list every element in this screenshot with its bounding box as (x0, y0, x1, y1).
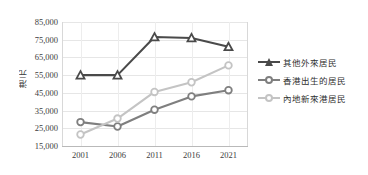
y-tick-label: 15,000 (35, 141, 58, 151)
series-lines (62, 22, 247, 146)
line-chart: 85,000 75,000 65,000 55,000 45,000 35,00… (0, 0, 368, 175)
data-point-marker (77, 119, 84, 126)
y-tick-label: 35,000 (35, 106, 58, 116)
y-axis-title: 港元 (18, 68, 30, 88)
x-tick-label: 2021 (220, 150, 237, 160)
y-axis-line (62, 22, 63, 146)
legend-item-mainland-new-arrival-residents[interactable]: 內地新來港居民 (258, 91, 368, 105)
y-tick-label: 25,000 (35, 123, 58, 133)
x-tick-label: 2001 (72, 150, 89, 160)
data-point-marker (114, 115, 121, 122)
data-point-marker (225, 43, 233, 50)
legend-item-hong-kong-born-residents[interactable]: 香港出生的居民 (258, 73, 368, 87)
data-point-marker (151, 106, 158, 113)
legend-label: 內地新來港居民 (283, 92, 346, 104)
data-point-marker (225, 87, 232, 94)
data-point-marker (188, 79, 195, 86)
y-tick-label: 75,000 (35, 35, 58, 45)
plot-area (62, 22, 248, 146)
y-tick-label: 45,000 (35, 88, 58, 98)
data-point-marker (77, 131, 84, 138)
legend-marker-circle-icon (258, 75, 280, 85)
y-tick-label: 85,000 (35, 17, 58, 27)
legend-marker-triangle-icon (258, 57, 280, 67)
y-tick-label: 65,000 (35, 52, 58, 62)
data-point-marker (151, 33, 159, 40)
legend: 其他外來居民 香港出生的居民 內地新來港居民 (258, 55, 368, 109)
legend-marker-circle-icon (258, 93, 280, 103)
y-tick-label: 55,000 (35, 70, 58, 80)
legend-label: 香港出生的居民 (283, 74, 346, 86)
data-point-marker (114, 123, 121, 130)
data-point-marker (188, 34, 196, 41)
x-tick-label: 2011 (146, 150, 163, 160)
series-line (81, 37, 229, 75)
legend-item-other-immigrant-residents[interactable]: 其他外來居民 (258, 55, 368, 69)
data-point-marker (77, 71, 85, 78)
data-point-marker (188, 93, 195, 100)
x-tick-label: 2006 (109, 150, 126, 160)
legend-label: 其他外來居民 (283, 56, 337, 68)
x-tick-label: 2016 (183, 150, 200, 160)
data-point-marker (225, 62, 232, 69)
x-axis-line (62, 146, 248, 147)
data-point-marker (151, 89, 158, 96)
